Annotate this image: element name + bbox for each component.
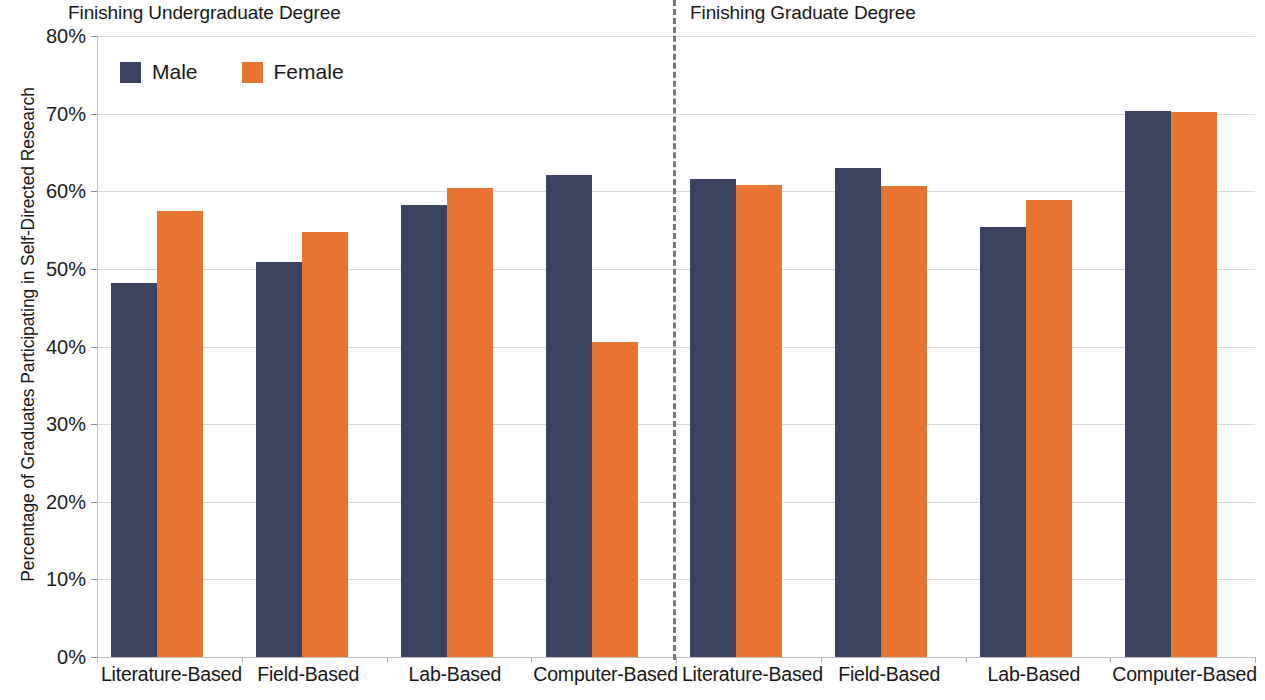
bar-female	[447, 188, 493, 657]
bar-male	[690, 179, 736, 657]
x-axis-tick	[676, 657, 677, 663]
bar-female	[302, 232, 348, 657]
x-axis-tick	[966, 657, 967, 663]
x-axis-label: Field-Based	[817, 663, 962, 686]
legend-swatch-female	[242, 62, 263, 83]
gridline	[97, 191, 1255, 192]
bar-male	[835, 168, 881, 657]
gridline	[97, 36, 1255, 37]
bar-male	[980, 227, 1026, 657]
legend-entry-female: Female	[242, 60, 344, 84]
x-axis-tick	[242, 657, 243, 663]
bar-female	[1026, 200, 1072, 657]
x-axis-label: Literature-Based	[99, 663, 244, 686]
x-axis-label: Lab-Based	[383, 663, 528, 686]
bar-female	[157, 211, 203, 657]
x-axis-tick	[1255, 657, 1256, 663]
y-axis-tick-label: 50%	[6, 257, 86, 280]
bar-male	[111, 283, 157, 657]
legend-label-female: Female	[274, 60, 344, 84]
panel-divider	[673, 0, 676, 660]
bar-female	[1171, 112, 1217, 657]
x-axis-label: Literature-Based	[680, 663, 825, 686]
legend-entry-male: Male	[120, 60, 198, 84]
x-axis-label: Computer-Based	[533, 663, 678, 686]
y-axis-tick-label: 10%	[6, 568, 86, 591]
bar-female	[592, 342, 638, 657]
bar-chart: Percentage of Graduates Participating in…	[0, 0, 1265, 700]
x-axis-label: Lab-Based	[962, 663, 1107, 686]
y-axis-tick-label: 0%	[6, 646, 86, 669]
bar-male	[1125, 111, 1171, 657]
plot-area	[97, 36, 1255, 657]
panel-title: Finishing Graduate Degree	[690, 2, 916, 24]
y-axis-tick-label: 60%	[6, 180, 86, 203]
y-axis-tick-label: 40%	[6, 335, 86, 358]
panel-title: Finishing Undergraduate Degree	[68, 2, 341, 24]
y-axis-tick-label: 80%	[6, 25, 86, 48]
legend: Male Female	[120, 60, 344, 84]
bar-male	[546, 175, 592, 657]
x-axis-label: Computer-Based	[1112, 663, 1257, 686]
x-axis-tick	[821, 657, 822, 663]
y-axis-tick-label: 20%	[6, 490, 86, 513]
bar-male	[256, 262, 302, 657]
bar-male	[401, 205, 447, 657]
x-axis-tick	[531, 657, 532, 663]
gridline	[97, 114, 1255, 115]
y-axis-line	[97, 36, 98, 657]
bar-female	[881, 186, 927, 657]
legend-label-male: Male	[152, 60, 198, 84]
x-axis-tick	[387, 657, 388, 663]
y-axis-tick-label: 70%	[6, 102, 86, 125]
x-axis-label: Field-Based	[236, 663, 381, 686]
legend-swatch-male	[120, 62, 141, 83]
y-axis-tick-label: 30%	[6, 413, 86, 436]
bar-female	[736, 185, 782, 657]
x-axis-tick	[1110, 657, 1111, 663]
x-axis-tick	[97, 657, 98, 663]
